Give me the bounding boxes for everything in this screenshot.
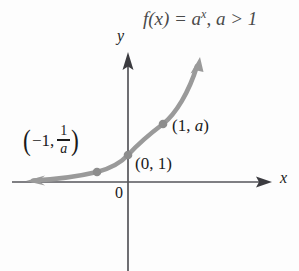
point-neg1-inner: −1, 1 a [32,125,70,156]
left-paren: ( [23,125,31,155]
point-marker-01 [124,151,133,160]
fraction-denominator: a [60,141,67,156]
point-label-1a: (1, a) [172,117,209,134]
function-label: f(x) = ax, a > 1 [143,8,257,28]
point-label-01: (0, 1) [135,155,172,172]
function-label-base: a [192,8,202,29]
right-paren: ) [71,125,79,155]
point-1a-value: a [195,116,204,135]
y-axis-label: y [117,28,124,44]
point-1a-suffix: ) [203,116,209,135]
point-marker-neg1 [93,168,102,177]
exponential-function-figure: f(x) = ax, a > 1 y x 0 ( −1, 1 a ) (0, 1… [0,0,299,271]
point-1a-prefix: (1, [172,116,195,135]
function-label-comma: , [206,8,216,29]
fraction-one-over-a: 1 a [57,124,70,155]
fraction-numerator: 1 [60,124,67,139]
function-label-equals: = [169,8,191,29]
point-marker-1a [159,120,168,129]
function-label-condition: a > 1 [216,8,257,29]
point-label-neg1: ( −1, 1 a ) [22,124,80,158]
point-neg1-x: −1, [32,132,54,149]
origin-label: 0 [115,185,123,201]
function-label-argument: (x) [148,8,169,29]
x-axis-label: x [280,170,287,186]
